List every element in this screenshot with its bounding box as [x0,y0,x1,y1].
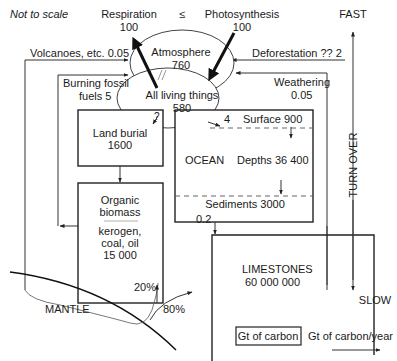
ocean-sediments-label: Sediments 3000 [205,198,285,210]
respiration-label: Respiration [101,8,157,20]
sediment-outflow-value: 0.2 [196,213,211,225]
ocean-inflow-value: 4 [224,113,230,125]
organic-label-4: coal, oil [101,237,138,249]
living-label: All living things [146,89,219,101]
organic-label-3: kerogen, [99,225,142,237]
ocean-label: OCEAN [185,154,224,166]
deforestation-label: Deforestation ?? 2 [252,47,342,59]
volcanoes-label: Volcanoes, etc. 0.05 [30,47,129,59]
respiration-value: 100 [120,21,138,33]
organic-label-2: biomass [100,206,141,218]
weathering-label-1: Weathering [274,76,330,88]
legend-stock-label: Gt of carbon [238,330,299,342]
organic-label-1: Organic [101,194,140,206]
turnover-label: TURN OVER [347,133,359,198]
mantle-label: MANTLE [45,303,90,315]
atmosphere-value: 760 [172,59,190,71]
land-burial-value: 1600 [108,139,132,151]
photosynthesis-label: Photosynthesis [205,8,280,20]
limestones-value: 60 000 000 [245,276,300,288]
burning-label-2: fuels 5 [79,90,111,102]
limestone-subduction-pct: 80% [163,303,185,315]
equilibrium-symbol: ≤ [179,8,185,20]
organic-value: 15 000 [103,249,137,261]
land-burial-question: ? [154,111,160,122]
living-value: 580 [173,102,191,114]
weathering-label-2: 0.05 [291,89,312,101]
organic-subduction-pct: 20% [134,281,156,293]
limestones-label: LIMESTONES [242,263,313,275]
burning-label-1: Burning fossil [63,77,129,89]
photosynthesis-value: 100 [233,21,251,33]
turnover-fast-label: FAST [339,8,367,20]
carbon-cycle-diagram: Not to scale Respiration 100 ≤ Photosynt… [0,0,397,361]
turnover-slow-label: SLOW [359,294,392,306]
ocean-depths-label: Depths 36 400 [237,154,309,166]
ocean-surface-label: Surface 900 [243,113,302,125]
not-to-scale-note: Not to scale [10,8,68,20]
atmosphere-label: Atmosphere [151,46,210,58]
legend-flux-label: Gt of carbon/year [308,330,393,342]
land-burial-label: Land burial [93,127,147,139]
